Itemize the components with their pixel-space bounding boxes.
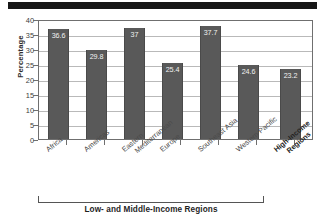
bar-value-label: 37 [125,30,144,39]
bar-value-label: 23.2 [281,71,300,80]
gridline [39,36,312,37]
y-tick-label: 30 [10,46,34,55]
bar-africa[interactable]: 36.6 [48,29,69,139]
y-tick-label: 40 [10,16,34,25]
bar-value-label: 25.4 [163,65,182,74]
x-tick-mark [180,140,181,145]
y-tick-label: 35 [10,31,34,40]
group-bracket-label: Low- and Middle-Income Regions [38,205,264,214]
bar-value-label: 37.7 [201,28,220,37]
x-tick-mark [218,140,219,145]
y-tick-label: 20 [10,76,34,85]
bar-value-label: 36.6 [49,31,68,40]
group-bracket [38,196,264,203]
bar-value-label: 24.6 [239,67,258,76]
y-tick-label: 10 [10,106,34,115]
header-rule [8,2,317,9]
x-tick-mark [104,140,105,145]
bar-value-label: 29.8 [87,52,106,61]
bar-americas[interactable]: 29.8 [86,50,107,139]
bar-southeast-asia[interactable]: 37.7 [200,26,221,139]
x-tick-mark [256,140,257,145]
y-tick-mark [33,140,38,141]
bar-chart-figure: Percentage 40 35 30 25 20 15 10 5 0 36.6 [0,0,325,221]
gridline [39,51,312,52]
y-tick-label: 0 [10,136,34,145]
y-tick-label: 5 [10,121,34,130]
x-tick-mark [66,140,67,145]
y-axis-title: Percentage [16,17,25,97]
y-tick-label: 25 [10,61,34,70]
bar-eastern-mediterranean[interactable]: 37 [124,28,145,139]
y-tick-label: 15 [10,91,34,100]
